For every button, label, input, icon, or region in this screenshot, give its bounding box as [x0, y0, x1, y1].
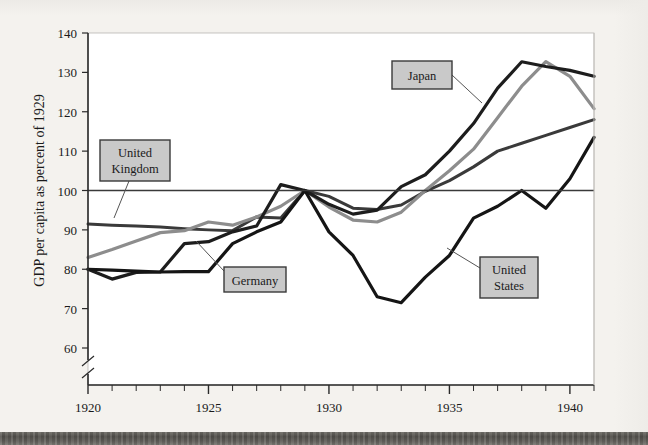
callout-germany[interactable]: Germany [224, 267, 286, 292]
y-tick-label: 80 [64, 262, 77, 277]
callout-label-us-line1: United [492, 263, 527, 277]
callout-japan[interactable]: Japan [392, 61, 452, 89]
page-top-edge [0, 0, 648, 16]
x-tick-label: 1925 [195, 400, 221, 415]
callout-label-uk-line2: Kingdom [111, 162, 159, 176]
callout-us[interactable]: UnitedStates [480, 257, 538, 298]
callout-label-uk-line1: United [118, 146, 153, 160]
x-tick-label: 1920 [75, 400, 101, 415]
x-tick-label: 1940 [557, 400, 583, 415]
callout-label-japan: Japan [408, 69, 437, 83]
figure-container: 1401301201101009080706019201925193019351… [0, 0, 648, 445]
y-axis-title: GDP per capita as percent of 1929 [32, 94, 47, 286]
callout-label-germany: Germany [232, 274, 279, 288]
page-right-edge [614, 0, 648, 432]
y-tick-label: 110 [58, 144, 77, 159]
x-tick-label: 1930 [316, 400, 342, 415]
y-tick-label: 70 [64, 302, 77, 317]
y-tick-label: 100 [58, 184, 78, 199]
callout-label-us-line2: States [494, 279, 524, 293]
y-tick-label: 130 [58, 65, 78, 80]
y-tick-label: 140 [58, 26, 78, 41]
line-chart: 1401301201101009080706019201925193019351… [0, 0, 648, 445]
y-tick-label: 90 [64, 223, 77, 238]
y-tick-label: 120 [58, 105, 78, 120]
callout-uk[interactable]: UnitedKingdom [100, 140, 170, 181]
y-tick-label: 60 [64, 341, 77, 356]
x-tick-label: 1935 [436, 400, 462, 415]
scan-edge-strip [0, 432, 648, 445]
